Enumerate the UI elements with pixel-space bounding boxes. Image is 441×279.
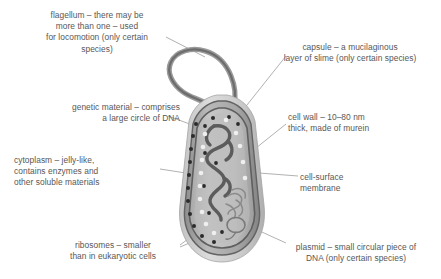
cytoplasm-region bbox=[194, 113, 249, 243]
label-cell-surface-membrane: cell-surface membrane bbox=[300, 172, 420, 194]
bacterial-cell-diagram: flagellum – there may be more than one –… bbox=[0, 0, 441, 279]
label-flagellum: flagellum – there may be more than one –… bbox=[14, 10, 180, 55]
label-cell-wall: cell wall – 10–80 nm thick, made of mure… bbox=[288, 112, 438, 134]
label-capsule: capsule – a mucilaginous layer of slime … bbox=[262, 42, 438, 64]
label-genetic-material: genetic material – comprises a large cir… bbox=[12, 102, 180, 124]
label-plasmid: plasmid – small circular piece of DNA (o… bbox=[272, 242, 440, 264]
label-cytoplasm: cytoplasm – jelly-like, contains enzymes… bbox=[14, 155, 169, 189]
label-ribosomes: ribosomes – smaller than in eukaryotic c… bbox=[38, 240, 188, 262]
